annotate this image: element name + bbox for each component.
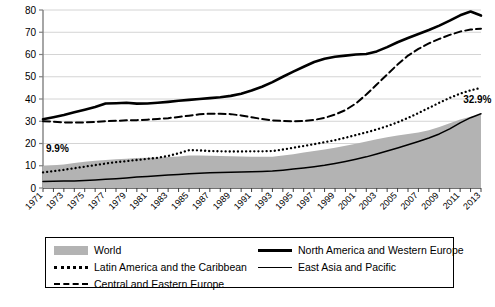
svg-text:50: 50 [25, 71, 37, 82]
world-area-swatch-icon [54, 246, 88, 255]
legend-label-world: World [94, 244, 121, 256]
svg-text:80: 80 [25, 5, 37, 16]
svg-text:2005: 2005 [378, 190, 399, 211]
solid-thin-line-swatch-icon [258, 267, 292, 268]
legend-label-east-asia-pacific: East Asia and Pacific [298, 261, 396, 273]
legend-item-north-america-western-europe: North America and Western Europe [258, 242, 464, 258]
legend-label-central-eastern-europe: Central and Eastern Europe [94, 278, 224, 290]
svg-text:1997: 1997 [294, 190, 315, 211]
svg-text:2013: 2013 [461, 190, 482, 211]
svg-text:1979: 1979 [107, 190, 128, 211]
legend-item-world: World [54, 242, 121, 258]
svg-text:1977: 1977 [86, 190, 107, 211]
svg-text:40: 40 [25, 94, 37, 105]
legend-item-central-eastern-europe: Central and Eastern Europe [54, 276, 224, 292]
svg-text:1981: 1981 [127, 190, 148, 211]
svg-text:1999: 1999 [315, 190, 336, 211]
svg-text:1989: 1989 [211, 190, 232, 211]
svg-text:1995: 1995 [273, 190, 294, 211]
legend-item-east-asia-pacific: East Asia and Pacific [258, 259, 396, 275]
svg-text:9.9%: 9.9% [46, 143, 69, 154]
svg-text:1991: 1991 [232, 190, 253, 211]
chart-container: 01020304050607080 1971197319751977197919… [0, 0, 495, 307]
svg-text:10: 10 [25, 160, 37, 171]
svg-text:2001: 2001 [336, 190, 357, 211]
svg-text:1993: 1993 [253, 190, 274, 211]
svg-text:32.9%: 32.9% [463, 94, 491, 105]
svg-text:1987: 1987 [190, 190, 211, 211]
svg-text:30: 30 [25, 116, 37, 127]
svg-text:2007: 2007 [399, 190, 420, 211]
svg-text:2009: 2009 [419, 190, 440, 211]
dashed-line-swatch-icon [54, 283, 88, 285]
svg-text:60: 60 [25, 49, 37, 60]
legend-label-latin-america-caribbean: Latin America and the Caribbean [94, 261, 247, 273]
legend-label-north-america-western-europe: North America and Western Europe [298, 244, 464, 256]
x-axis-tick-labels: 1971197319751977197919811983198519871989… [23, 190, 482, 211]
solid-thick-line-swatch-icon [258, 249, 292, 252]
chart-legend: World North America and Western Europe L… [45, 237, 454, 288]
svg-text:2003: 2003 [357, 190, 378, 211]
y-axis-tick-labels: 01020304050607080 [25, 5, 37, 194]
svg-text:1971: 1971 [23, 190, 44, 211]
dotted-line-swatch-icon [54, 266, 88, 269]
svg-text:2011: 2011 [441, 190, 462, 211]
data-series-layer [43, 12, 481, 188]
svg-text:1983: 1983 [148, 190, 169, 211]
svg-text:70: 70 [25, 27, 37, 38]
svg-text:1973: 1973 [44, 190, 65, 211]
legend-item-latin-america-caribbean: Latin America and the Caribbean [54, 259, 247, 275]
svg-text:1975: 1975 [65, 190, 86, 211]
svg-text:1985: 1985 [169, 190, 190, 211]
svg-text:20: 20 [25, 138, 37, 149]
